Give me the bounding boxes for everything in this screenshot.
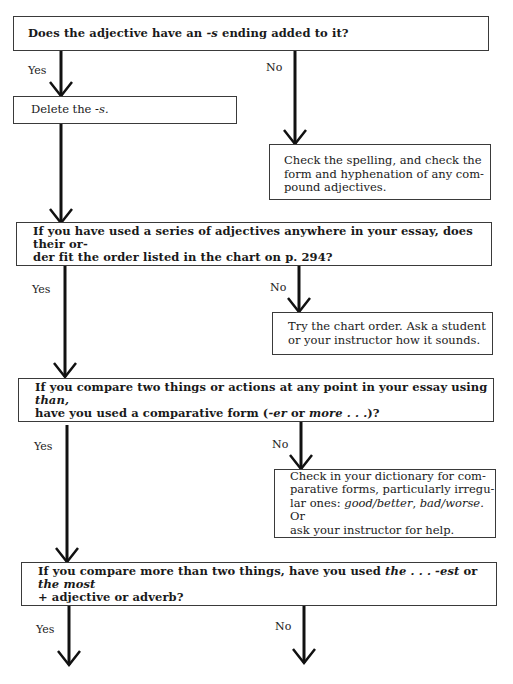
answer-box-check-dictionary: Check in your dictionary for com- parati… (274, 469, 496, 538)
yes-label: Yes (36, 623, 54, 636)
answer-box-try-chart-order: Try the chart order. Ask a student or yo… (272, 312, 493, 355)
yes-label: Yes (28, 64, 46, 77)
answer-box-check-spelling: Check the spelling, and check the form a… (269, 144, 491, 200)
answer-text: Delete the -s. (31, 103, 109, 117)
question-box-adjective-order: If you have used a series of adjectives … (16, 222, 492, 266)
no-label: No (270, 281, 286, 294)
answer-text: Check in your dictionary for com- parati… (290, 470, 495, 538)
yes-label: Yes (32, 283, 50, 296)
answer-box-delete-s: Delete the -s. (13, 96, 237, 124)
question-text: If you compare two things or actions at … (35, 381, 493, 420)
question-box-adjective-s-ending: Does the adjective have an -s ending add… (13, 16, 489, 51)
answer-text: Try the chart order. Ask a student or yo… (288, 320, 486, 347)
answer-text: Check the spelling, and check the form a… (284, 154, 484, 195)
no-label: No (275, 620, 291, 633)
no-label: No (266, 61, 282, 74)
question-box-superlative-form: If you compare more than two things, hav… (21, 562, 497, 606)
question-box-comparative-form: If you compare two things or actions at … (18, 378, 494, 422)
yes-label: Yes (34, 440, 52, 453)
question-text: If you have used a series of adjectives … (33, 225, 491, 264)
question-text: Does the adjective have an -s ending add… (28, 27, 349, 40)
question-text: If you compare more than two things, hav… (38, 565, 496, 604)
no-label: No (272, 438, 288, 451)
